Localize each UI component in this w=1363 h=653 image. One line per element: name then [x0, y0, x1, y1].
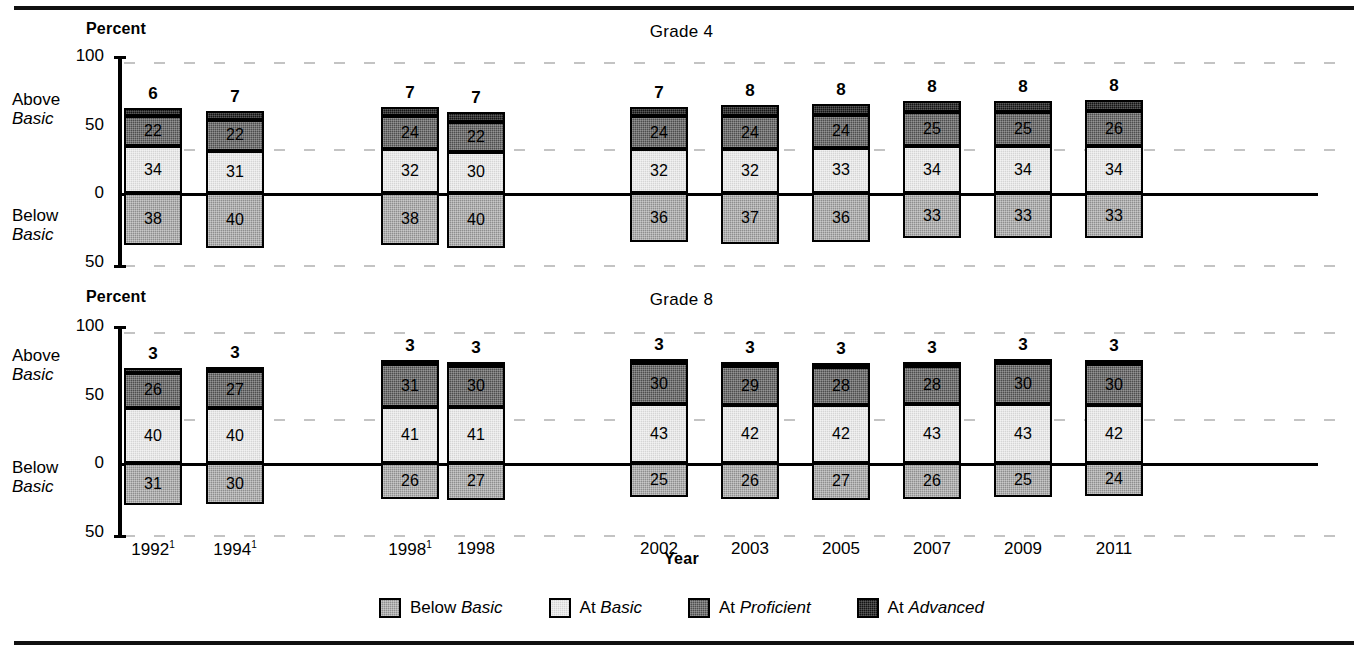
bar-segment-advanced: [630, 107, 688, 117]
stacked-bar[interactable]: 3041273: [447, 362, 505, 500]
stacked-bar[interactable]: 2843263: [903, 362, 961, 499]
legend-item-basic[interactable]: At Basic: [549, 598, 642, 618]
stacked-bar[interactable]: 3043253: [994, 359, 1052, 497]
stacked-bar[interactable]: 2432367: [630, 107, 688, 243]
plot-area-grade-4: 1005005022343862231407243238722304072432…: [118, 18, 1343, 286]
stacked-bar[interactable]: 3141263: [381, 360, 439, 498]
bar-segment-value: 28: [832, 377, 850, 395]
bar-segment-basic: 33: [812, 148, 870, 193]
bar-segment-proficient: 27: [206, 371, 264, 408]
bar-segment-below-basic: 33: [903, 193, 961, 238]
bar-segment-below-basic: 31: [124, 463, 182, 505]
above-basic-word: Above: [12, 346, 60, 365]
bar-segment-proficient: 26: [1085, 111, 1143, 147]
legend-label-prefix: At: [580, 598, 601, 617]
stacked-bar[interactable]: 2640313: [124, 368, 182, 505]
legend-item-advanced[interactable]: At Advanced: [857, 598, 984, 618]
stacked-bar[interactable]: 2534338: [994, 101, 1052, 238]
y-axis-cap: [114, 326, 126, 329]
bar-segment-basic: 34: [1085, 146, 1143, 193]
y-axis-cap: [114, 56, 126, 59]
bar-segment-value: 33: [923, 207, 941, 225]
bar-segment-basic: 40: [206, 408, 264, 463]
bar-segment-proficient: 29: [721, 366, 779, 406]
stacked-bar[interactable]: 2942263: [721, 362, 779, 499]
stacked-bar[interactable]: 2432378: [721, 105, 779, 243]
y-axis-line: [118, 56, 122, 268]
gridline: [124, 332, 1343, 334]
bar-segment-basic: 31: [206, 151, 264, 193]
stacked-bar[interactable]: 3043253: [630, 359, 688, 497]
bar-segment-proficient: 24: [812, 115, 870, 148]
bar-segment-proficient: 22: [447, 122, 505, 152]
stacked-bar[interactable]: 2842273: [812, 363, 870, 500]
bar-segment-basic: 34: [903, 146, 961, 193]
legend-label-prefix: At: [888, 598, 909, 617]
legend-swatch-basic: [549, 598, 571, 618]
stacked-bar[interactable]: 2230407: [447, 112, 505, 248]
bar-segment-basic: 41: [381, 407, 439, 463]
y-tick-label: 100: [56, 46, 104, 66]
bar-segment-value: 25: [1014, 120, 1032, 138]
y-tick-label: 50: [56, 385, 104, 405]
plot-area-grade-8: 1005005026403132740303314126330412733043…: [118, 286, 1343, 534]
bar-segment-value: 40: [226, 211, 244, 229]
advanced-value-label: 3: [206, 343, 264, 363]
stacked-bar[interactable]: 2634338: [1085, 100, 1143, 238]
bar-segment-value: 22: [226, 126, 244, 144]
stacked-bar[interactable]: 2740303: [206, 367, 264, 504]
bar-segment-value: 40: [144, 427, 162, 445]
stacked-bar[interactable]: 2534338: [903, 101, 961, 238]
bar-segment-below-basic: 40: [206, 193, 264, 248]
bar-segment-value: 28: [923, 376, 941, 394]
advanced-value-label: 7: [630, 83, 688, 103]
bar-segment-value: 30: [226, 475, 244, 493]
panel-grade-4: Grade 4 Percent Above Basic Below Basic …: [0, 18, 1363, 286]
bar-segment-value: 29: [741, 377, 759, 395]
stacked-bar[interactable]: 2432387: [381, 107, 439, 245]
bar-segment-value: 32: [741, 162, 759, 180]
bar-segment-value: 25: [923, 120, 941, 138]
bar-segment-basic: 32: [721, 149, 779, 193]
bar-segment-value: 24: [832, 122, 850, 140]
below-basic-em: Basic: [12, 225, 58, 244]
bar-segment-value: 26: [741, 472, 759, 490]
stacked-bar[interactable]: 2433368: [812, 104, 870, 242]
bar-segment-advanced: [903, 101, 961, 112]
bar-segment-advanced: [1085, 100, 1143, 111]
bar-segment-basic: 42: [721, 405, 779, 463]
bar-segment-proficient: 30: [1085, 364, 1143, 405]
advanced-value-label: 8: [1085, 76, 1143, 96]
stacked-bar[interactable]: 2234386: [124, 108, 182, 245]
advanced-value-label: 3: [630, 335, 688, 355]
below-basic-label-grade-4: Below Basic: [12, 206, 58, 244]
legend-swatch-below: [379, 598, 401, 618]
bar-segment-value: 43: [650, 425, 668, 443]
bar-segment-basic: 30: [447, 152, 505, 193]
bar-segment-value: 34: [1105, 161, 1123, 179]
legend-item-below[interactable]: Below Basic: [379, 598, 503, 618]
stacked-bar[interactable]: 2231407: [206, 111, 264, 248]
above-basic-em: Basic: [12, 365, 60, 384]
bar-segment-value: 30: [467, 163, 485, 181]
legend-item-proficient[interactable]: At Proficient: [688, 598, 811, 618]
bar-segment-below-basic: 40: [447, 193, 505, 248]
bar-segment-proficient: 24: [630, 116, 688, 149]
bar-segment-basic: 43: [994, 404, 1052, 463]
bar-segment-basic: 42: [812, 405, 870, 463]
advanced-value-label: 3: [903, 338, 961, 358]
advanced-value-label: 3: [994, 335, 1052, 355]
bar-segment-value: 30: [467, 377, 485, 395]
bar-segment-proficient: 28: [903, 366, 961, 404]
bar-segment-value: 38: [144, 210, 162, 228]
bar-segment-value: 26: [1105, 120, 1123, 138]
x-tick-footnote-marker: 1: [169, 539, 175, 550]
below-basic-label-grade-8: Below Basic: [12, 458, 58, 496]
stacked-bar[interactable]: 3042243: [1085, 360, 1143, 496]
legend-swatch-proficient: [688, 598, 710, 618]
bar-segment-below-basic: 25: [994, 463, 1052, 497]
bar-segment-value: 24: [741, 124, 759, 142]
bar-segment-advanced: [124, 108, 182, 116]
bar-segment-proficient: 30: [630, 363, 688, 404]
bar-segment-value: 41: [467, 426, 485, 444]
